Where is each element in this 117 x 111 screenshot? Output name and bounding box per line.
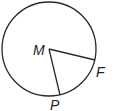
label-m: M (33, 42, 45, 58)
label-p: P (50, 97, 60, 111)
label-f: F (96, 64, 106, 80)
radius-mp (49, 49, 60, 95)
circle-diagram: M F P (0, 0, 117, 111)
radius-mf (49, 49, 95, 60)
diagram-canvas: M F P (0, 0, 117, 111)
